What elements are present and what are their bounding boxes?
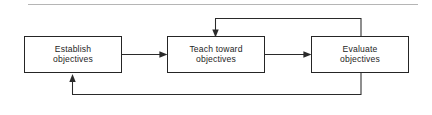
arrowhead-into-evaluate-left [303,51,311,58]
node-label-evaluate-line1: Evaluate [343,44,378,54]
node-label-teach-line2: objectives [196,54,236,64]
connector-evaluate-to-establish-feedback [73,73,362,95]
node-label-teach-line1: Teach toward [189,44,242,54]
diagram-canvas: Establish objectives Teach toward object… [0,0,432,115]
instructional-cycle-diagram: Establish objectives Teach toward object… [0,0,432,115]
arrowhead-into-establish-bottom [69,74,75,82]
node-label-establish-line1: Establish [55,44,91,54]
node-label-evaluate-line2: objectives [340,54,380,64]
node-label-establish-line2: objectives [53,54,93,64]
arrowhead-into-teach-left [159,51,167,58]
